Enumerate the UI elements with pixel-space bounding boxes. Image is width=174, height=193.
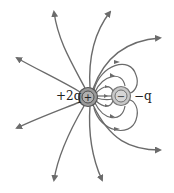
- plus-sign: +: [84, 92, 92, 103]
- positive-charge-label: +2q: [56, 89, 81, 103]
- negative-charge: −: [112, 87, 131, 106]
- negative-charge-label: −q: [134, 89, 152, 103]
- minus-sign: −: [117, 91, 125, 102]
- field-line-diagram: + − +2q −q: [0, 0, 174, 193]
